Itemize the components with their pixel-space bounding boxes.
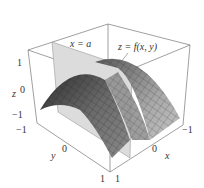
surface-plot-figure: x = a z = f(x, y) z 1 0 −1 −1 0 y 1 1 0 … xyxy=(0,0,204,188)
y-axis-label: y xyxy=(50,150,56,161)
x-tick-neg1: −1 xyxy=(182,124,193,135)
y-tick-neg1: −1 xyxy=(16,124,27,135)
y-tick-1: 1 xyxy=(100,173,105,184)
plane-label: x = a xyxy=(69,38,91,49)
x-tick-0: 0 xyxy=(152,143,157,154)
surface-label: z = f(x, y) xyxy=(117,41,158,53)
z-tick-neg1: −1 xyxy=(12,109,23,120)
surface-label-leader xyxy=(121,53,128,62)
z-tick-1: 1 xyxy=(17,57,22,68)
z-tick-0: 0 xyxy=(20,84,25,95)
z-axis-label: z xyxy=(11,88,16,99)
y-tick-0: 0 xyxy=(62,143,67,154)
x-axis-label: x xyxy=(164,150,170,161)
x-tick-1: 1 xyxy=(115,173,120,184)
